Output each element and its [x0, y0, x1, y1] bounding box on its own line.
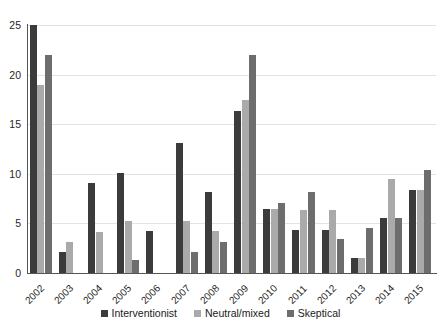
- legend-item[interactable]: Interventionist: [101, 308, 177, 319]
- bar: [337, 239, 344, 273]
- x-tick-label: 2004: [81, 282, 105, 306]
- legend-item[interactable]: Neutral/mixed: [194, 308, 270, 319]
- bar-group: [348, 25, 377, 273]
- bar: [308, 192, 315, 273]
- bar-group: [85, 25, 114, 273]
- x-tick-label: 2013: [344, 282, 368, 306]
- bar: [205, 192, 212, 273]
- bar-group: [378, 25, 407, 273]
- legend-label: Interventionist: [112, 308, 177, 319]
- bar-group: [407, 25, 436, 273]
- y-axis-ticks: 0510152025: [0, 0, 23, 330]
- y-tick-label: 20: [0, 69, 21, 80]
- bar: [125, 221, 132, 273]
- bar-group: [290, 25, 319, 273]
- bar-group: [202, 25, 231, 273]
- x-tick-label: 2007: [168, 282, 192, 306]
- bar: [263, 209, 270, 273]
- bar: [292, 230, 299, 273]
- bar: [212, 231, 219, 273]
- bar-group: [115, 25, 144, 273]
- bar: [366, 228, 373, 273]
- y-tick-label: 10: [0, 169, 21, 180]
- bar: [183, 221, 190, 273]
- bar: [117, 173, 124, 273]
- plot-area: [27, 25, 436, 273]
- x-axis-line: [27, 273, 437, 274]
- bar: [132, 260, 139, 273]
- bar: [88, 183, 95, 273]
- x-tick-label: 2002: [22, 282, 46, 306]
- bar-group: [232, 25, 261, 273]
- legend-label: Skeptical: [298, 308, 341, 319]
- bar: [351, 258, 358, 273]
- bar: [380, 218, 387, 273]
- x-tick-label: 2015: [402, 282, 426, 306]
- x-tick-label: 2003: [52, 282, 76, 306]
- bar: [278, 203, 285, 273]
- legend-swatch-icon: [287, 310, 294, 317]
- legend: InterventionistNeutral/mixedSkeptical: [0, 308, 441, 319]
- y-tick-label: 5: [0, 218, 21, 229]
- bar: [395, 218, 402, 273]
- legend-swatch-icon: [101, 310, 108, 317]
- bar: [234, 111, 241, 273]
- bar: [96, 232, 103, 273]
- y-axis-line: [27, 24, 28, 274]
- bar-group: [144, 25, 173, 273]
- bar-group: [56, 25, 85, 273]
- x-tick-label: 2011: [285, 283, 308, 306]
- y-tick-label: 0: [0, 268, 21, 279]
- x-tick-label: 2005: [110, 282, 134, 306]
- x-tick-label: 2006: [139, 282, 163, 306]
- bar: [322, 230, 329, 273]
- bar: [191, 252, 198, 273]
- bar: [176, 143, 183, 273]
- bar: [388, 179, 395, 273]
- bar: [249, 55, 256, 273]
- bar: [417, 190, 424, 273]
- bar: [424, 170, 431, 273]
- bar: [59, 252, 66, 273]
- bar: [30, 25, 37, 273]
- bar: [409, 190, 416, 273]
- x-tick-label: 2012: [315, 282, 339, 306]
- legend-label: Neutral/mixed: [205, 308, 270, 319]
- bar: [242, 100, 249, 273]
- x-tick-label: 2009: [227, 282, 251, 306]
- legend-swatch-icon: [194, 310, 201, 317]
- y-tick-label: 15: [0, 119, 21, 130]
- bar: [220, 242, 227, 273]
- bar: [271, 209, 278, 273]
- bar: [66, 242, 73, 273]
- x-tick-label: 2010: [256, 282, 280, 306]
- x-tick-label: 2008: [198, 282, 222, 306]
- bar-chart: 0510152025 20022003200420052006200720082…: [0, 0, 441, 330]
- legend-item[interactable]: Skeptical: [287, 308, 341, 319]
- bar-group: [27, 25, 56, 273]
- bar: [300, 210, 307, 273]
- y-tick-label: 25: [0, 20, 21, 31]
- bar-group: [261, 25, 290, 273]
- bar: [329, 210, 336, 273]
- x-tick-label: 2014: [373, 282, 397, 306]
- bar-group: [173, 25, 202, 273]
- bar: [358, 258, 365, 273]
- bar: [37, 85, 44, 273]
- bar: [146, 231, 153, 273]
- bar-group: [319, 25, 348, 273]
- bar: [45, 55, 52, 273]
